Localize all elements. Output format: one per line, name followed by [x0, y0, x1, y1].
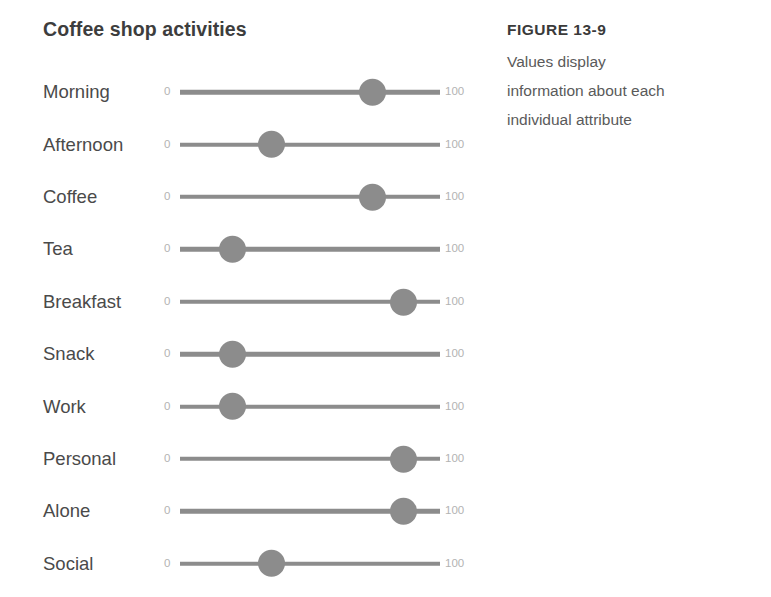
slider-min-label: 0 [164, 506, 170, 518]
slider-track[interactable] [180, 90, 440, 95]
slider-list: Morning0100Afternoon0100Coffee0100Tea010… [0, 66, 490, 590]
slider-control[interactable]: 0100 [164, 549, 468, 579]
slider-min-label: 0 [164, 558, 170, 570]
slider-control[interactable]: 0100 [164, 392, 468, 422]
caption-text: Values display information about each in… [507, 47, 747, 134]
slider-handle[interactable] [219, 341, 246, 368]
slider-min-label: 0 [164, 401, 170, 413]
slider-track[interactable] [180, 404, 440, 409]
slider-max-label: 100 [445, 86, 464, 98]
slider-row: Tea0100 [0, 223, 490, 275]
slider-chart-panel: Coffee shop activities Morning0100Aftern… [0, 0, 490, 597]
slider-row-label: Tea [43, 240, 73, 259]
slider-row: Breakfast0100 [0, 276, 490, 328]
slider-row-label: Personal [43, 450, 116, 469]
slider-row-label: Work [43, 397, 86, 416]
slider-max-label: 100 [445, 191, 464, 203]
slider-min-label: 0 [164, 191, 170, 203]
slider-max-label: 100 [445, 453, 464, 465]
slider-min-label: 0 [164, 86, 170, 98]
caption-line-2: information about each [507, 76, 747, 105]
slider-handle[interactable] [390, 498, 417, 525]
slider-control[interactable]: 0100 [164, 77, 468, 107]
page-title: Coffee shop activities [43, 18, 247, 41]
slider-row: Afternoon0100 [0, 118, 490, 170]
slider-row: Coffee0100 [0, 171, 490, 223]
slider-max-label: 100 [445, 244, 464, 256]
slider-track[interactable] [180, 300, 440, 305]
caption-line-1: Values display [507, 47, 747, 76]
slider-track[interactable] [180, 561, 440, 566]
slider-max-label: 100 [445, 401, 464, 413]
slider-control[interactable]: 0100 [164, 339, 468, 369]
slider-handle[interactable] [359, 79, 386, 106]
slider-track[interactable] [180, 457, 440, 462]
figure-number-label: FIGURE 13-9 [507, 21, 606, 39]
slider-min-label: 0 [164, 139, 170, 151]
slider-max-label: 100 [445, 139, 464, 151]
slider-row-label: Breakfast [43, 293, 121, 312]
slider-max-label: 100 [445, 506, 464, 518]
slider-control[interactable]: 0100 [164, 130, 468, 160]
slider-row: Alone0100 [0, 485, 490, 537]
slider-control[interactable]: 0100 [164, 444, 468, 474]
slider-row-label: Social [43, 554, 93, 573]
slider-control[interactable]: 0100 [164, 496, 468, 526]
slider-handle[interactable] [390, 288, 417, 315]
slider-row: Social0100 [0, 538, 490, 590]
slider-row-label: Afternoon [43, 135, 123, 154]
slider-max-label: 100 [445, 296, 464, 308]
figure-caption: FIGURE 13-9 Values display information a… [507, 0, 771, 597]
slider-handle[interactable] [390, 445, 417, 472]
slider-handle[interactable] [258, 550, 285, 577]
slider-track[interactable] [180, 195, 440, 200]
slider-min-label: 0 [164, 244, 170, 256]
slider-handle[interactable] [219, 236, 246, 263]
slider-handle[interactable] [258, 131, 285, 158]
slider-control[interactable]: 0100 [164, 182, 468, 212]
slider-row: Snack0100 [0, 328, 490, 380]
slider-handle[interactable] [359, 183, 386, 210]
slider-min-label: 0 [164, 296, 170, 308]
slider-control[interactable]: 0100 [164, 287, 468, 317]
slider-row: Work0100 [0, 380, 490, 432]
slider-track[interactable] [180, 142, 440, 147]
slider-row-label: Morning [43, 83, 110, 102]
slider-max-label: 100 [445, 558, 464, 570]
slider-row: Personal0100 [0, 433, 490, 485]
slider-track[interactable] [180, 352, 440, 357]
slider-min-label: 0 [164, 348, 170, 360]
slider-max-label: 100 [445, 348, 464, 360]
slider-track[interactable] [180, 509, 440, 514]
slider-row-label: Coffee [43, 188, 97, 207]
slider-min-label: 0 [164, 453, 170, 465]
slider-row-label: Snack [43, 345, 94, 364]
slider-row: Morning0100 [0, 66, 490, 118]
figure-container: Coffee shop activities Morning0100Aftern… [0, 0, 771, 597]
caption-line-3: individual attribute [507, 105, 747, 134]
slider-row-label: Alone [43, 502, 90, 521]
slider-track[interactable] [180, 247, 440, 252]
slider-control[interactable]: 0100 [164, 234, 468, 264]
slider-handle[interactable] [219, 393, 246, 420]
